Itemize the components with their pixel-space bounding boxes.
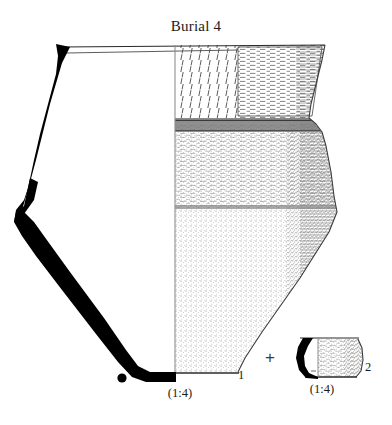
vessel-2-scale-label: (1:4) bbox=[276, 382, 368, 397]
vessel-1-group bbox=[14, 40, 348, 383]
vessel-drawing-canvas bbox=[0, 0, 392, 425]
vessel-1-neck-decoration-horizontal bbox=[238, 45, 348, 118]
vessel-1-number-label: 1 bbox=[238, 368, 244, 383]
archaeological-figure: Burial 4 bbox=[0, 0, 392, 425]
vessel-1-neck-decoration-vertical bbox=[175, 45, 238, 118]
vessel-1-base-dot-marker bbox=[117, 373, 126, 382]
vessel-2-group bbox=[296, 335, 368, 381]
vessel-2-left-section-profile bbox=[296, 338, 318, 379]
vessel-1-left-section-profile bbox=[14, 44, 176, 382]
vessel-2-number-label: 2 bbox=[365, 360, 371, 375]
vessel-2-body-stipple bbox=[314, 335, 368, 381]
plus-separator: + bbox=[265, 348, 275, 368]
